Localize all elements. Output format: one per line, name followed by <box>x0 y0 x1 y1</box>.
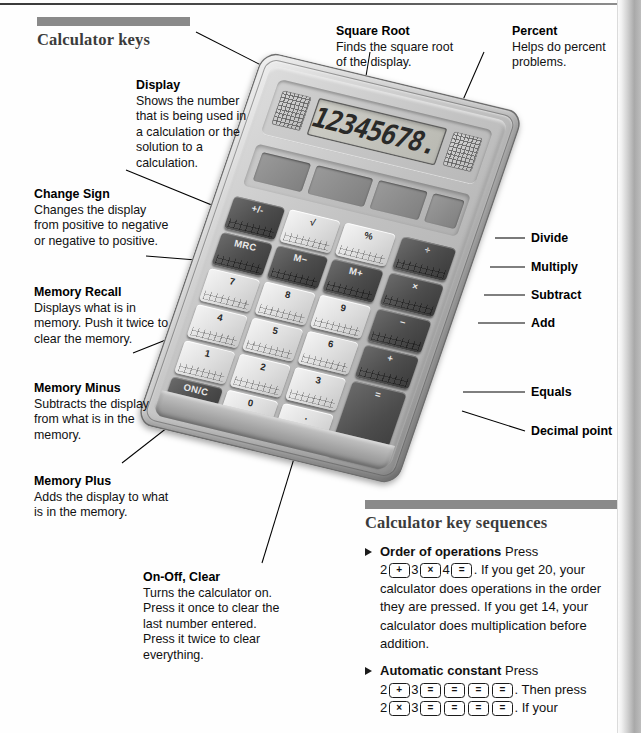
calc-key-label: 9 <box>340 302 348 314</box>
key-sequences-title: Calculator key sequences <box>365 513 547 533</box>
key-sequences-list: Order of operations Press 2+3×4=. If you… <box>365 543 617 727</box>
label-add: Add <box>531 316 555 330</box>
key-equals-icon: = <box>492 701 513 716</box>
callout-memory-minus-body: Subtracts the display from what is in th… <box>34 397 176 444</box>
bullet-triangle-icon <box>365 667 372 675</box>
page-canvas: Calculator keys <box>0 0 641 733</box>
label-divide: Divide <box>531 231 568 245</box>
calc-key-label: % <box>363 229 374 242</box>
calc-key-label: 4 <box>216 311 224 323</box>
callout-display-body: Shows the number that is being used in a… <box>136 94 254 172</box>
calc-key-label: 7 <box>229 275 237 287</box>
key-equals-icon: = <box>444 683 465 698</box>
key-multiply-icon: × <box>420 563 441 578</box>
calc-key-label: + <box>386 352 394 364</box>
label-decimal-point: Decimal point <box>531 424 612 438</box>
callout-memory-plus: Memory Plus Adds the display to what is … <box>34 474 178 521</box>
key-equals-icon: = <box>468 701 489 716</box>
callout-memory-plus-body: Adds the display to what is in the memor… <box>34 490 178 521</box>
key-equals-icon: = <box>420 683 441 698</box>
callout-change-sign: Change Sign Changes the display from pos… <box>34 187 174 249</box>
bullet-triangle-icon <box>365 548 372 556</box>
key-sequences-bar <box>365 500 617 509</box>
sequence-item-automatic-constant: Automatic constant Press 2+3====. Then p… <box>365 662 617 717</box>
callout-memory-recall: Memory Recall Displays what is in memory… <box>34 285 174 347</box>
sequence-intro-constant: Press <box>505 663 538 678</box>
label-multiply: Multiply <box>531 260 578 274</box>
calc-key-label: 2 <box>259 361 267 373</box>
sequence-title-order: Order of operations <box>380 544 501 559</box>
callout-memory-recall-title: Memory Recall <box>34 285 174 301</box>
key-equals-icon: = <box>468 683 489 698</box>
solar-panel-left <box>271 90 312 131</box>
calculator-keys-bar <box>37 17 190 26</box>
callout-on-off-clear-title: On-Off, Clear <box>143 570 290 586</box>
sequence-title-constant: Automatic constant <box>380 663 501 678</box>
solar-panel-right <box>442 131 483 172</box>
calc-key-label: MRC <box>233 237 257 253</box>
callout-percent: Percent Helps do percent problems. <box>512 24 622 71</box>
sequence-intro-order: Press <box>505 544 538 559</box>
callout-square-root-body: Finds the square root of the display. <box>336 40 464 71</box>
callout-square-root-title: Square Root <box>336 24 464 40</box>
callout-memory-recall-body: Displays what is in memory. Push it twic… <box>34 301 174 348</box>
page-edge-shadow <box>617 0 641 733</box>
calc-key-label: M+ <box>348 265 364 279</box>
calc-key-label: 8 <box>284 288 292 300</box>
key-plus-icon: + <box>389 683 410 698</box>
calc-key-label: 1 <box>204 347 212 359</box>
calc-key-label: 0 <box>247 397 255 409</box>
sequence-item-order-of-operations: Order of operations Press 2+3×4=. If you… <box>365 543 617 653</box>
label-equals: Equals <box>531 385 572 399</box>
callout-change-sign-body: Changes the display from positive to neg… <box>34 203 174 250</box>
callout-display-title: Display <box>136 78 254 94</box>
key-equals-icon: = <box>492 683 513 698</box>
callout-percent-title: Percent <box>512 24 622 40</box>
seq1b-tok2: 3 <box>411 700 418 715</box>
calc-key-label: . <box>304 410 309 421</box>
calc-key-label: M− <box>293 251 309 265</box>
callout-on-off-clear: On-Off, Clear Turns the calculator on. P… <box>143 570 290 663</box>
sequence-after2-constant: . If your <box>514 700 557 715</box>
callout-percent-body: Helps do percent problems. <box>512 40 622 71</box>
calc-key-label: × <box>411 280 419 292</box>
key-equals-icon: = <box>444 701 465 716</box>
seq0-tok4: 4 <box>442 562 449 577</box>
callout-square-root: Square Root Finds the square root of the… <box>336 24 464 71</box>
sequence-after-constant: . Then press <box>514 682 586 697</box>
calc-key-label: = <box>374 388 382 400</box>
calc-key-label: +/- <box>250 202 264 216</box>
calc-key-label: 3 <box>315 374 323 386</box>
key-equals-icon: = <box>451 563 472 578</box>
page-title: Calculator keys <box>37 30 150 50</box>
key-multiply-icon: × <box>389 701 410 716</box>
key-plus-icon: + <box>389 563 410 578</box>
calc-key-label: √ <box>309 216 317 228</box>
label-subtract: Subtract <box>531 288 581 302</box>
callout-memory-minus-title: Memory Minus <box>34 381 176 397</box>
callout-on-off-clear-body: Turns the calculator on. Press it once t… <box>143 586 290 664</box>
seq0-tok0: 2 <box>380 562 387 577</box>
seq1b-tok0: 2 <box>380 700 387 715</box>
callout-change-sign-title: Change Sign <box>34 187 174 203</box>
callout-memory-minus: Memory Minus Subtracts the display from … <box>34 381 176 443</box>
seq1-tok2: 3 <box>411 682 418 697</box>
seq1-tok0: 2 <box>380 682 387 697</box>
seq0-tok2: 3 <box>411 562 418 577</box>
page-top-rule <box>0 3 617 5</box>
calc-key-label: − <box>398 316 406 328</box>
key-equals-icon: = <box>420 701 441 716</box>
callout-memory-plus-title: Memory Plus <box>34 474 178 490</box>
calc-key-label: ÷ <box>423 244 431 256</box>
calc-key-label: 6 <box>327 338 335 350</box>
callout-display: Display Shows the number that is being u… <box>136 78 254 171</box>
calc-key-label: 5 <box>272 325 280 337</box>
